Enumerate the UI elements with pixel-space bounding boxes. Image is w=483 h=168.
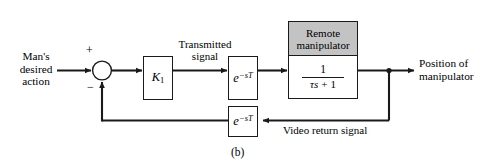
gain-symbol: K [152,70,160,84]
gain-subscript: 1 [160,75,164,85]
forward-delay-block[interactable]: e−sT [228,56,258,100]
plant-body: 1 τs+1 [289,56,357,98]
summing-junction-circle [93,61,112,80]
input-label-line3: action [13,75,59,88]
sum-negative-sign: − [87,80,94,95]
feedback-delay-exponent: −sT [239,113,253,123]
plant-denominator-op: + [318,78,330,90]
figure-canvas: Man's desired action + − K1 Transmitted … [0,0,483,168]
video-return-signal-label: Video return signal [283,124,393,136]
forward-delay-exponent: −sT [239,70,253,80]
plant-block[interactable]: Remote manipulator 1 τs+1 [288,21,358,99]
forward-delay-label: e−sT [233,70,252,86]
plant-numerator: 1 [314,64,332,76]
feedback-delay-label: e−sT [233,113,252,129]
plant-header-line1: Remote [289,27,357,39]
figure-caption: (b) [231,146,244,158]
plant-transfer-function: 1 τs+1 [302,64,344,90]
plant-header-text: Remote manipulator [289,27,357,51]
transmitted-signal-line1: Transmitted [168,38,242,50]
plant-denominator-one: 1 [330,78,336,90]
plant-denominator: τs+1 [308,79,338,90]
plant-header: Remote manipulator [289,22,357,56]
output-label-line1: Position of [419,57,483,70]
input-label-line1: Man's [13,50,59,63]
feedback-delay-block[interactable]: e−sT [228,106,258,137]
sum-positive-sign: + [86,43,93,58]
output-label-line2: manipulator [419,70,483,83]
gain-block-label: K1 [152,70,165,85]
input-label: Man's desired action [13,50,59,88]
input-label-line2: desired [13,63,59,76]
plant-header-line2: manipulator [289,39,357,51]
output-label: Position of manipulator [419,57,483,82]
